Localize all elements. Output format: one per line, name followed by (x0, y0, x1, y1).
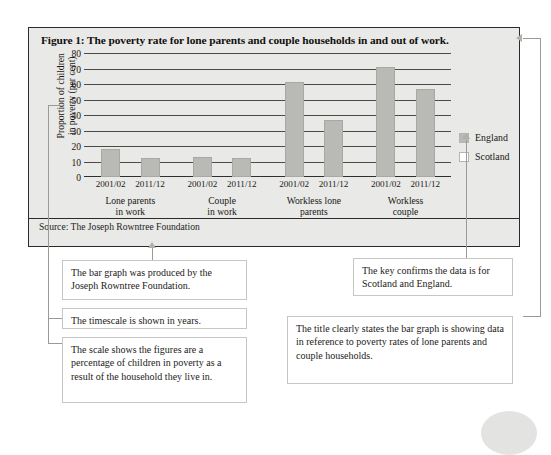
x-axis-tick: 2011/12 (319, 179, 348, 189)
bar (141, 158, 160, 177)
bar (232, 158, 251, 177)
connector-source-stem (152, 247, 153, 261)
arrow-left-title-icon (516, 34, 522, 42)
y-axis-tick: 10 (59, 156, 81, 167)
legend-label: England (475, 132, 508, 143)
bar-series (84, 53, 451, 177)
connector-key-stem (466, 140, 467, 258)
x-axis-ticks: 2001/022011/122001/022011/122001/022011/… (84, 179, 451, 191)
connector-left-spine (48, 105, 49, 343)
connector-title-stub (523, 38, 541, 39)
note-key-text: The key confirms the data is for Scotlan… (362, 265, 490, 289)
group-label-line1: Workless (388, 195, 423, 206)
group-label-line1: Lone parents (105, 195, 155, 206)
legend-label: Scotland (475, 151, 510, 162)
arrow-up-key-icon (462, 133, 470, 139)
y-axis-tick: 0 (59, 172, 81, 183)
note-key: The key confirms the data is for Scotlan… (353, 258, 513, 296)
x-axis-tick: 2011/12 (227, 179, 256, 189)
arrow-up-source-icon (148, 242, 156, 248)
group-label-line2: parents (300, 206, 328, 217)
group-label-line1: Couple (208, 195, 236, 206)
x-axis-group-label: Lone parentsin work (105, 196, 155, 217)
note-timescale: The timescale is shown in years. (62, 308, 247, 329)
x-axis-group-label: Worklesscouple (388, 196, 423, 217)
note-scale-text: The scale shows the figures are a percen… (71, 344, 222, 382)
x-axis-tick: 2001/02 (96, 179, 126, 189)
x-axis-group-label: Couplein work (207, 196, 237, 217)
bar (101, 149, 120, 177)
bar (416, 89, 435, 177)
connector-left-top-stub (48, 105, 60, 106)
bar (285, 82, 304, 177)
y-axis-ticks: 80706050403020100 (59, 53, 81, 177)
plot-area: Proportion of children in poverty (per c… (29, 28, 521, 218)
y-axis-tick: 50 (59, 94, 81, 105)
note-source-text: The bar graph was produced by the Joseph… (71, 267, 212, 291)
source-divider (29, 218, 519, 219)
y-axis-tick: 70 (59, 63, 81, 74)
y-axis-tick: 30 (59, 125, 81, 136)
note-title: The title clearly states the bar graph i… (287, 316, 513, 384)
note-title-text: The title clearly states the bar graph i… (296, 323, 504, 361)
legend-swatch-icon (459, 152, 469, 162)
bar (376, 67, 395, 177)
note-source-attribution: The bar graph was produced by the Joseph… (62, 260, 247, 300)
source-text: Source: The Joseph Rowntree Foundation (39, 221, 200, 232)
x-axis-tick: 2001/02 (187, 179, 217, 189)
figure-panel: Figure 1: The poverty rate for lone pare… (28, 27, 520, 247)
note-timescale-text: The timescale is shown in years. (71, 315, 201, 326)
y-axis-tick: 60 (59, 79, 81, 90)
y-axis-tick: 80 (59, 48, 81, 59)
x-axis-tick: 2011/12 (411, 179, 440, 189)
group-label-line2: in work (116, 206, 146, 217)
group-label-line2: in work (207, 206, 237, 217)
decorative-circle (481, 411, 537, 455)
group-label-line1: Workless lone (287, 195, 341, 206)
x-axis-group-label: Workless loneparents (287, 196, 341, 217)
x-axis-tick: 2001/02 (279, 179, 309, 189)
connector-title-spine (540, 38, 541, 316)
note-scale: The scale shows the figures are a percen… (62, 337, 247, 403)
connector-title-note-stub (523, 316, 541, 317)
x-axis-tick: 2011/12 (135, 179, 164, 189)
bar (324, 120, 343, 177)
x-axis-tick: 2001/02 (371, 179, 401, 189)
group-label-line2: couple (393, 206, 419, 217)
y-axis-tick: 40 (59, 110, 81, 121)
y-axis-tick: 20 (59, 141, 81, 152)
bar (193, 157, 212, 177)
